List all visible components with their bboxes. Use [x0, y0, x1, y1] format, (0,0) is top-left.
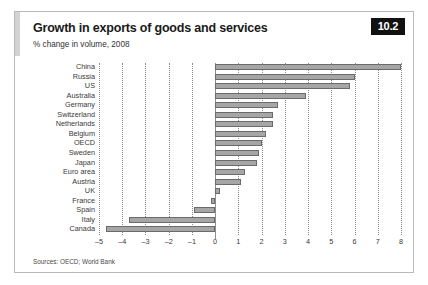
gridline — [355, 63, 356, 235]
gridline — [99, 63, 100, 235]
chart-bar — [211, 198, 216, 204]
figure-number-badge: 10.2 — [371, 18, 405, 35]
chart-bar — [194, 207, 215, 213]
category-label: UK — [85, 187, 95, 195]
page-title: Growth in exports of goods and services — [33, 21, 268, 35]
page-subtitle: % change in volume, 2008 — [33, 40, 130, 49]
chart-bar — [215, 64, 401, 70]
x-axis-tick-label: 0 — [213, 237, 217, 246]
x-axis-tick-label: –4 — [118, 237, 126, 246]
category-label: Netherlands — [56, 120, 95, 128]
x-axis-tick-label: –1 — [188, 237, 196, 246]
category-label: US — [85, 82, 95, 90]
x-axis-tick-label: 1 — [236, 237, 240, 246]
chart-bar — [215, 160, 257, 166]
chart-axes: –5–4–3–2–1012345678 — [99, 63, 401, 249]
chart-bar — [106, 226, 215, 232]
gridline — [192, 63, 193, 235]
x-axis-tick-label: 6 — [353, 237, 357, 246]
x-axis-tick-label: 3 — [283, 237, 287, 246]
category-label: Spain — [76, 206, 95, 214]
chart-bar — [215, 131, 266, 137]
category-label: OECD — [74, 139, 95, 147]
category-label: Japan — [75, 159, 95, 167]
chart-bar — [215, 121, 273, 127]
chart-bar — [215, 83, 350, 89]
chart-bar — [215, 74, 354, 80]
x-axis-tick-label: 5 — [329, 237, 333, 246]
category-label: Germany — [65, 101, 95, 109]
chart-bar — [215, 169, 245, 175]
x-axis-tick-label: 4 — [306, 237, 310, 246]
x-axis-tick-label: –5 — [95, 237, 103, 246]
gridline — [169, 63, 170, 235]
category-label: Euro area — [63, 168, 95, 176]
chart-bar — [215, 102, 278, 108]
category-label: Austria — [72, 178, 95, 186]
category-label: France — [72, 197, 95, 205]
category-label: Russia — [73, 73, 95, 81]
category-axis-labels: ChinaRussiaUSAustraliaGermanySwitzerland… — [21, 63, 95, 249]
category-label: Canada — [69, 225, 95, 233]
category-label: Switzerland — [57, 111, 95, 119]
x-axis-tick-label: 7 — [376, 237, 380, 246]
x-axis-tick-label: 8 — [399, 237, 403, 246]
x-axis-tick-label: –2 — [165, 237, 173, 246]
chart-plot-area: ChinaRussiaUSAustraliaGermanySwitzerland… — [15, 60, 415, 252]
category-label: Italy — [82, 216, 95, 224]
figure-panel: 10.2 Growth in exports of goods and serv… — [14, 11, 414, 273]
gridline — [401, 63, 402, 235]
category-label: China — [76, 63, 95, 71]
gridline — [378, 63, 379, 235]
gridline — [122, 63, 123, 235]
chart-bar — [215, 179, 241, 185]
category-label: Belgium — [69, 130, 95, 138]
chart-bar — [215, 112, 273, 118]
source-note: Sources: OECD; World Bank — [33, 258, 115, 265]
x-axis-tick-label: 2 — [260, 237, 264, 246]
category-label: Sweden — [69, 149, 95, 157]
chart-bar — [215, 150, 259, 156]
chart-bar — [129, 217, 215, 223]
header-accent-bar — [15, 12, 20, 56]
chart-bar — [215, 188, 220, 194]
gridline — [145, 63, 146, 235]
chart-bar — [215, 93, 306, 99]
x-axis-tick-label: –3 — [141, 237, 149, 246]
category-label: Australia — [67, 92, 95, 100]
chart-bar — [215, 140, 261, 146]
